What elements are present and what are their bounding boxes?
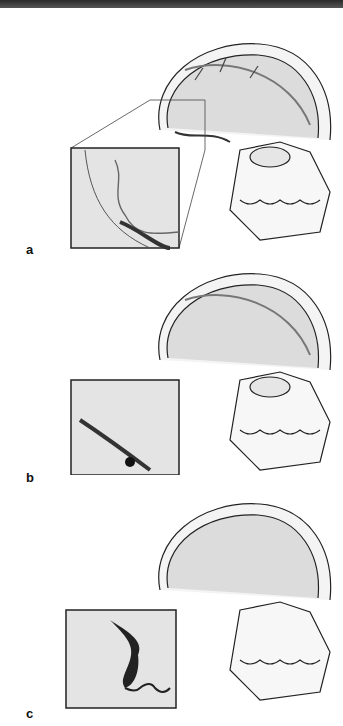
skull-illustration-b [0,230,343,475]
skull-illustration-c [0,460,343,726]
inset-box-c [66,610,176,708]
panel-b: b [0,230,343,475]
panel-label-c: c [26,706,33,721]
panel-c: c [0,460,343,726]
